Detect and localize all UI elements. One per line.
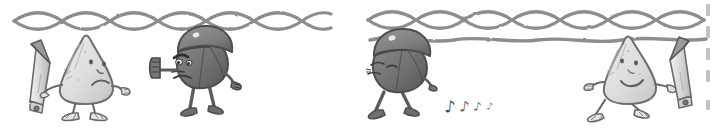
helmet-character-angry [150,26,241,116]
pencil-prop [30,40,50,113]
music-note-2: ♪ [458,97,470,116]
page-edge-ticks [706,0,711,130]
right-panel-canvas: ♪ ♪ ♪ ♪ [360,0,713,130]
comic-strip: ♪ ♪ ♪ ♪ [0,0,713,130]
music-note-3: ♪ [472,99,482,114]
music-note-1: ♪ [444,96,457,117]
left-panel [0,0,345,130]
pear-character-happy [584,36,676,121]
braided-rope-border [368,12,704,29]
helmet-character-content [366,29,437,119]
left-panel-canvas [0,0,345,130]
music-note-trail: ♪ ♪ ♪ ♪ [444,96,495,117]
pear-character-sad [40,35,130,120]
music-note-4: ♪ [486,100,495,112]
braided-rope-border [14,13,331,30]
pencil-prop [670,37,692,108]
right-panel: ♪ ♪ ♪ ♪ [360,0,713,130]
